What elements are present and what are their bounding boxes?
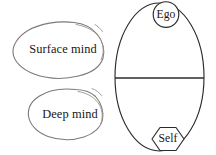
mind-model-diagram: Surface mind Deep mind Ego Self <box>0 0 216 155</box>
surface-mind-blob: Surface mind <box>13 22 104 78</box>
figure-canvas: Surface mind Deep mind Ego Self <box>0 0 216 155</box>
self-label: Self <box>158 132 177 145</box>
psyche-structure: Ego Self <box>115 2 204 151</box>
deep-mind-label: Deep mind <box>42 107 98 121</box>
surface-mind-tail-stroke <box>95 25 103 32</box>
surface-mind-label: Surface mind <box>29 42 97 56</box>
ego-node: Ego <box>153 2 179 28</box>
deep-mind-blob: Deep mind <box>28 89 103 140</box>
ego-label: Ego <box>157 8 176 21</box>
